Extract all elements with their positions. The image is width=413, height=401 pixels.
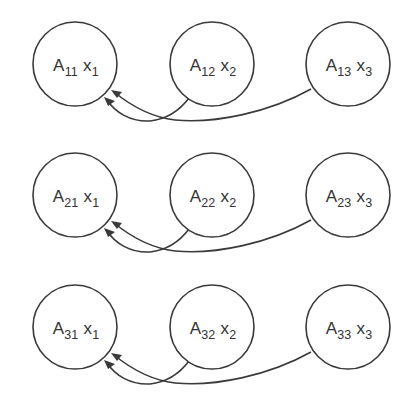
matrix-symbol: A bbox=[326, 319, 338, 338]
vector-symbol: x bbox=[221, 56, 230, 75]
matrix-subscript: 33 bbox=[337, 328, 351, 342]
edge-a22-to-a21 bbox=[107, 229, 189, 252]
node-label: A31x1 bbox=[53, 319, 100, 339]
vector-symbol: x bbox=[221, 319, 230, 338]
matrix-symbol: A bbox=[53, 319, 65, 338]
matrix-symbol: A bbox=[326, 56, 338, 75]
vector-subscript: 1 bbox=[92, 196, 99, 210]
arrowhead-icon bbox=[104, 360, 115, 369]
vector-symbol: x bbox=[357, 187, 366, 206]
matrix-subscript: 23 bbox=[337, 196, 351, 210]
node-label: A33x3 bbox=[326, 319, 373, 339]
node-label: A32x2 bbox=[190, 319, 237, 339]
vector-subscript: 1 bbox=[92, 328, 99, 342]
matrix-subscript: 21 bbox=[64, 196, 78, 210]
vector-symbol: x bbox=[221, 187, 230, 206]
node-label: A13x3 bbox=[326, 56, 373, 76]
vector-subscript: 2 bbox=[229, 196, 236, 210]
arrowhead-icon bbox=[104, 97, 115, 106]
node-label: A22x2 bbox=[190, 187, 237, 207]
node-label: A21x1 bbox=[53, 187, 100, 207]
matrix-subscript: 12 bbox=[201, 65, 215, 79]
vector-symbol: x bbox=[357, 56, 366, 75]
vector-symbol: x bbox=[84, 187, 93, 206]
vector-subscript: 2 bbox=[229, 65, 236, 79]
matrix-subscript: 22 bbox=[201, 196, 215, 210]
edge-a32-to-a31 bbox=[107, 361, 189, 384]
matrix-subscript: 32 bbox=[201, 328, 215, 342]
vector-subscript: 3 bbox=[365, 328, 372, 342]
vector-subscript: 1 bbox=[92, 65, 99, 79]
edge-a12-to-a11 bbox=[107, 98, 189, 121]
matrix-symbol: A bbox=[53, 56, 65, 75]
vector-symbol: x bbox=[84, 319, 93, 338]
matrix-symbol: A bbox=[190, 56, 202, 75]
vector-subscript: 3 bbox=[365, 196, 372, 210]
matrix-subscript: 31 bbox=[64, 328, 78, 342]
vector-subscript: 2 bbox=[229, 328, 236, 342]
vector-subscript: 3 bbox=[365, 65, 372, 79]
matrix-symbol: A bbox=[326, 187, 338, 206]
matrix-symbol: A bbox=[190, 187, 202, 206]
node-label: A12x2 bbox=[190, 56, 237, 76]
node-label: A23x3 bbox=[326, 187, 373, 207]
matrix-symbol: A bbox=[53, 187, 65, 206]
node-label: A11x1 bbox=[53, 56, 99, 76]
matrix-subscript: 11 bbox=[65, 65, 78, 79]
matrix-symbol: A bbox=[190, 319, 202, 338]
matrix-subscript: 13 bbox=[337, 65, 351, 79]
vector-symbol: x bbox=[83, 56, 92, 75]
arrowhead-icon bbox=[104, 228, 115, 237]
vector-symbol: x bbox=[357, 319, 366, 338]
